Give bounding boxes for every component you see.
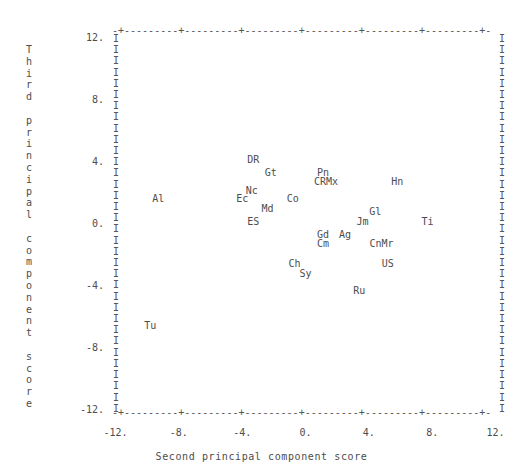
y-axis-title-char: e bbox=[22, 304, 36, 316]
x-axis-title: Second principal component score bbox=[0, 451, 523, 462]
y-axis-title-char: o bbox=[22, 280, 36, 292]
data-point-label: Tu bbox=[144, 321, 156, 331]
data-point-label: DR bbox=[247, 155, 259, 165]
data-point-label: Cm bbox=[317, 239, 329, 249]
x-axis-tick-label: 4. bbox=[349, 428, 389, 438]
data-point-label: CRMx bbox=[314, 177, 338, 187]
x-axis-tick-label: 8. bbox=[412, 428, 452, 438]
data-point-label: Al bbox=[152, 194, 164, 204]
y-axis-title-char: i bbox=[22, 138, 36, 150]
data-point-label: Ag bbox=[339, 230, 351, 240]
y-axis-title-char: t bbox=[22, 327, 36, 339]
x-axis-tick-label: 12. bbox=[476, 428, 516, 438]
x-axis-tick-label: -4. bbox=[222, 428, 262, 438]
y-axis-tick-label: -4. bbox=[62, 281, 104, 291]
y-axis-title-char: n bbox=[22, 315, 36, 327]
data-point-label: CnMr bbox=[369, 239, 393, 249]
data-point-label: Ru bbox=[353, 286, 365, 296]
y-axis-tick-label: 4. bbox=[62, 157, 104, 167]
y-axis-title-char: h bbox=[22, 56, 36, 68]
scatter-plot: -+---------+---------+---------+--------… bbox=[0, 0, 523, 474]
data-point-label: Hn bbox=[391, 177, 403, 187]
y-axis-tick-label: 12. bbox=[62, 33, 104, 43]
y-axis-title-char: n bbox=[22, 150, 36, 162]
y-axis-title-char: l bbox=[22, 209, 36, 221]
y-axis-title-char: d bbox=[22, 91, 36, 103]
y-axis-title-char: o bbox=[22, 245, 36, 257]
y-axis-title-space bbox=[22, 221, 36, 233]
y-axis-title-char: m bbox=[22, 256, 36, 268]
data-point-label: Co bbox=[287, 194, 299, 204]
plot-frame-right: I I I I I I I I I I I I I I I I I I I I … bbox=[496, 33, 508, 413]
y-axis-tick-label: -8. bbox=[62, 343, 104, 353]
data-point-label: Ec bbox=[236, 194, 248, 204]
data-point-label: Gt bbox=[265, 168, 277, 178]
x-axis-tick-label: 0. bbox=[286, 428, 326, 438]
data-point-label: Md bbox=[261, 204, 273, 214]
y-axis-title-char: c bbox=[22, 233, 36, 245]
y-axis-tick-label: 0. bbox=[62, 219, 104, 229]
data-point-label: US bbox=[382, 259, 394, 269]
y-axis-title-char: o bbox=[22, 374, 36, 386]
y-axis-title-space bbox=[22, 339, 36, 351]
data-point-label: Sy bbox=[299, 269, 311, 279]
y-axis-tick-label: -12. bbox=[62, 405, 104, 415]
y-axis-title-char: c bbox=[22, 363, 36, 375]
y-axis-title-space bbox=[22, 103, 36, 115]
data-point-label: ES bbox=[247, 217, 259, 227]
plot-frame-left: I I I I I I I I I I I I I I I I I I I I … bbox=[110, 33, 122, 413]
y-axis-tick-label: 8. bbox=[62, 95, 104, 105]
y-axis-title-char: p bbox=[22, 186, 36, 198]
data-point-label: Jm bbox=[356, 217, 368, 227]
data-point-label: Gl bbox=[369, 207, 381, 217]
x-axis-tick-label: -12. bbox=[96, 428, 136, 438]
y-axis-title-char: c bbox=[22, 162, 36, 174]
y-axis-title-char: e bbox=[22, 398, 36, 410]
y-axis-title-char: p bbox=[22, 268, 36, 280]
data-point-label: Ti bbox=[421, 217, 433, 227]
y-axis-title-char: a bbox=[22, 197, 36, 209]
y-axis-title-char: n bbox=[22, 292, 36, 304]
y-axis-title-char: r bbox=[22, 79, 36, 91]
x-axis-tick-label: -8. bbox=[159, 428, 199, 438]
y-axis-title-char: s bbox=[22, 351, 36, 363]
y-axis-title-char: r bbox=[22, 127, 36, 139]
y-axis-title: Third principal component score bbox=[22, 44, 36, 410]
y-axis-title-char: p bbox=[22, 115, 36, 127]
plot-frame-top: -+---------+---------+---------+--------… bbox=[112, 26, 504, 37]
y-axis-title-char: T bbox=[22, 44, 36, 56]
y-axis-title-char: r bbox=[22, 386, 36, 398]
plot-frame-bottom: -+---------+---------+---------+--------… bbox=[112, 408, 504, 419]
y-axis-title-char: i bbox=[22, 68, 36, 80]
y-axis-title-char: i bbox=[22, 174, 36, 186]
